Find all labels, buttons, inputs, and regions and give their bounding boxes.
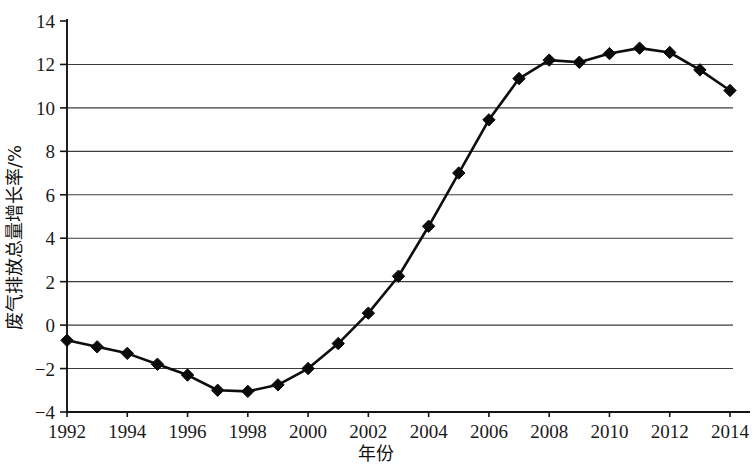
x-axis-tick-label: 2000 [289, 421, 327, 442]
x-axis-tick-label: 1994 [108, 421, 147, 442]
data-point-marker [573, 56, 585, 68]
data-point-marker [633, 42, 645, 54]
y-axis-tick-label: 10 [36, 98, 55, 119]
y-axis-tick-label: 8 [46, 141, 56, 162]
chart-canvas: −4−202468101214 199219941996199820002002… [0, 0, 753, 464]
x-axis-tick-label: 2008 [530, 421, 568, 442]
x-axis-tick-label: 1996 [169, 421, 207, 442]
y-axis-tick-label: 14 [36, 11, 56, 32]
x-axis-tick-labels: 1992199419961998200020022004200620082010… [48, 421, 750, 442]
data-point-marker [453, 167, 465, 179]
data-point-marker [61, 334, 73, 346]
data-point-marker [121, 347, 133, 359]
y-axis-tick-label: −2 [35, 359, 55, 380]
data-point-marker [242, 385, 254, 397]
x-axis-tick-label: 1992 [48, 421, 86, 442]
y-axis-title: 废气排放总量增长率/% [4, 145, 25, 330]
data-point-marker [603, 47, 615, 59]
x-axis-tick-label: 2006 [470, 421, 508, 442]
data-line-emission-growth-rate [67, 48, 730, 391]
x-axis-tick-label: 2002 [349, 421, 387, 442]
x-axis-tick-label: 2014 [711, 421, 750, 442]
y-axis-tick-label: 6 [46, 185, 56, 206]
data-point-marker [422, 220, 434, 232]
x-axis-tick-label: 1998 [229, 421, 267, 442]
y-axis-tick-label: 12 [36, 54, 55, 75]
data-point-marker [91, 341, 103, 353]
x-axis-title: 年份 [358, 443, 394, 464]
x-axis-tick-label: 2004 [410, 421, 449, 442]
data-point-marker [211, 384, 223, 396]
x-axis-tick-label: 2012 [651, 421, 689, 442]
y-axis-tick-labels: −4−202468101214 [35, 11, 56, 423]
line-chart: −4−202468101214 199219941996199820002002… [0, 0, 753, 464]
data-point-markers [61, 42, 736, 398]
y-axis-tick-label: 0 [46, 315, 56, 336]
gridlines-group [67, 64, 733, 368]
y-axis-tick-label: 4 [46, 228, 56, 249]
y-axis-tick-label: 2 [46, 272, 56, 293]
data-point-marker [664, 46, 676, 58]
x-axis-tick-label: 2010 [590, 421, 628, 442]
data-point-marker [272, 379, 284, 391]
data-point-marker [181, 369, 193, 381]
y-axis-tick-label: −4 [35, 402, 56, 423]
tick-marks-group [60, 21, 730, 417]
